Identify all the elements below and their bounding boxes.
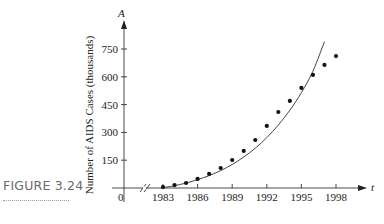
- x-tick-label: 1998: [325, 191, 348, 203]
- y-axis-label: Number of AIDS Cases (thousands): [83, 36, 96, 195]
- aids-cases-chart: Number of AIDS Cases (thousands) A t 0 1…: [0, 0, 384, 224]
- data-point: [276, 110, 280, 114]
- data-point: [299, 86, 303, 90]
- data-point: [172, 183, 176, 187]
- x-ticks: 198319861989199219951998: [152, 184, 348, 203]
- data-point: [196, 177, 200, 181]
- y-tick-label: 150: [102, 154, 119, 166]
- data-point: [219, 166, 223, 170]
- y-tick-label: 450: [102, 99, 119, 111]
- y-axis-variable: A: [117, 7, 125, 19]
- x-tick-label: 1995: [290, 191, 313, 203]
- y-ticks: 150300450600750: [102, 43, 128, 166]
- x-tick-label: 1986: [187, 191, 210, 203]
- x-axis-arrow-icon: [358, 185, 367, 191]
- x-axis-variable: t: [371, 181, 375, 193]
- y-axis-arrow-icon: [121, 20, 127, 29]
- y-tick-label: 750: [102, 43, 119, 55]
- y-tick-label: 300: [102, 126, 119, 138]
- x-tick-label: 1983: [152, 191, 175, 203]
- data-point: [207, 172, 211, 176]
- origin-label: 0: [118, 191, 124, 203]
- data-point: [184, 181, 188, 185]
- data-point: [322, 63, 326, 67]
- data-point: [161, 185, 165, 189]
- y-tick-label: 600: [102, 71, 119, 83]
- data-points: [161, 54, 338, 189]
- data-point: [334, 54, 338, 58]
- data-point: [242, 149, 246, 153]
- fitted-curve: [163, 42, 325, 188]
- data-point: [253, 138, 257, 142]
- data-point: [265, 124, 269, 128]
- data-point: [288, 99, 292, 103]
- x-tick-label: 1992: [256, 191, 278, 203]
- data-point: [311, 73, 315, 77]
- data-point: [230, 158, 234, 162]
- x-tick-label: 1989: [221, 191, 244, 203]
